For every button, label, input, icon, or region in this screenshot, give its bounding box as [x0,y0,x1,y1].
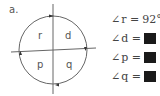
quadrant-p: p [37,59,43,70]
angle-name: q [121,70,128,83]
equation-p: ∠ p = [111,48,160,67]
quadrant-r: r [38,30,43,41]
hidden-answer-box [144,33,156,44]
angle-icon: ∠ [111,13,120,26]
figure-label: a. [9,4,18,15]
equals-sign: = [132,51,141,64]
equals-sign: = [132,70,141,83]
equation-list: ∠ r = 92° ∠ d = ∠ p = ∠ q = [111,10,160,86]
angle-name: p [121,51,128,64]
equals-sign: = [130,13,139,26]
quadrant-d: d [65,30,71,41]
hidden-answer-box [144,52,156,63]
angle-icon: ∠ [111,32,120,45]
angle-name: d [121,32,128,45]
equation-q: ∠ q = [111,67,160,86]
quadrant-q: q [66,59,72,70]
angle-name: r [121,13,126,26]
angle-value: 92° [142,13,160,26]
angle-icon: ∠ [111,70,120,83]
angle-icon: ∠ [111,51,120,64]
equals-sign: = [132,32,141,45]
circle-diagram: a. r d p q [0,0,100,96]
equation-r: ∠ r = 92° [111,10,160,29]
equation-d: ∠ d = [111,29,160,48]
hidden-answer-box [144,71,156,82]
